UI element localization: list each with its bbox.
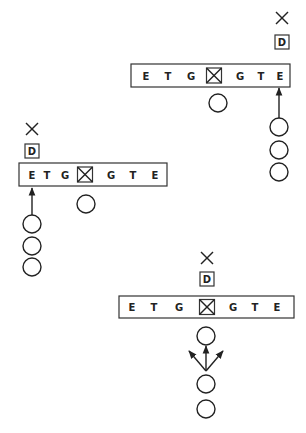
position-label: T [258, 71, 265, 82]
defender-label: D [203, 274, 211, 285]
defender-x-icon [26, 123, 38, 135]
position-label: E [29, 170, 36, 181]
defender-label: D [278, 37, 286, 48]
defender-d-box: D [275, 35, 289, 49]
position-label: T [130, 170, 137, 181]
position-label: T [44, 170, 51, 181]
player-circle-icon [77, 195, 95, 213]
player-circle-icon [270, 141, 288, 159]
formation-diagram: DETGGTEDETGGTEDETGGTE [0, 0, 306, 433]
route-arrow-icon [189, 351, 206, 371]
center-square-icon [200, 300, 215, 315]
position-label: E [129, 302, 136, 313]
position-label: T [151, 302, 158, 313]
player-circle-icon [197, 400, 215, 418]
position-label: T [165, 71, 172, 82]
player-circle-icon [270, 118, 288, 136]
position-label: G [107, 170, 115, 181]
player-circle-icon [197, 375, 215, 393]
plays-layer: DETGGTEDETGGTEDETGGTE [19, 12, 294, 418]
position-label: E [274, 302, 281, 313]
defender-d-box: D [25, 144, 39, 158]
position-label: E [277, 71, 284, 82]
position-label: E [143, 71, 150, 82]
player-circle-icon [23, 237, 41, 255]
position-label: G [187, 71, 195, 82]
center-square-icon [78, 167, 93, 182]
position-label: E [152, 170, 159, 181]
player-circle-icon [270, 163, 288, 181]
play-left: DETGGTE [19, 123, 167, 276]
defender-label: D [28, 146, 36, 157]
defender-d-box: D [200, 272, 214, 286]
player-circle-icon [23, 215, 41, 233]
position-label: G [229, 302, 237, 313]
defender-x-icon [201, 252, 213, 264]
player-circle-icon [197, 327, 215, 345]
position-label: G [175, 302, 183, 313]
defender-x-icon [276, 12, 288, 24]
player-circle-icon [23, 258, 41, 276]
position-label: G [236, 71, 244, 82]
position-label: G [61, 170, 69, 181]
play-bottom: DETGGTE [119, 252, 294, 418]
play-top-right: DETGGTE [131, 12, 290, 181]
route-arrow-icon [206, 351, 223, 371]
player-circle-icon [209, 94, 227, 112]
position-label: T [252, 302, 259, 313]
center-square-icon [207, 68, 222, 83]
